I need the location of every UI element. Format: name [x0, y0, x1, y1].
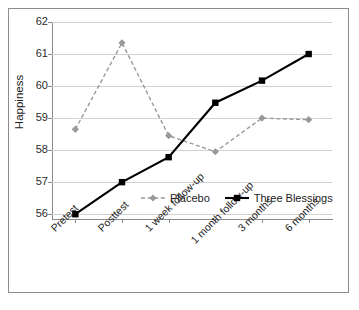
x-tick-mark [122, 219, 123, 223]
data-point-marker [305, 51, 311, 57]
data-point-marker [72, 126, 79, 133]
data-point-marker [259, 77, 265, 83]
data-point-marker [119, 179, 125, 185]
data-point-marker [305, 116, 312, 123]
y-tick-label: 61 [36, 48, 48, 59]
x-tick-mark [309, 219, 310, 223]
chart-figure: Happiness 56575859606162 PretestPosttest… [0, 0, 359, 310]
legend-swatch-square-icon [224, 192, 250, 204]
y-tick-label: 57 [36, 176, 48, 187]
y-tick-label: 58 [36, 144, 48, 155]
data-point-marker [212, 100, 218, 106]
legend-item-placebo: Placebo [140, 192, 210, 204]
legend-label: Three Blessings [254, 193, 333, 204]
x-tick-mark [262, 219, 263, 223]
data-point-marker [165, 154, 171, 160]
y-tick-mark [48, 22, 52, 23]
y-tick-mark [48, 86, 52, 87]
series-line-placebo [75, 43, 308, 152]
legend-item-three-blessings: Three Blessings [224, 192, 333, 204]
y-tick-label: 56 [36, 208, 48, 219]
y-tick-mark [48, 54, 52, 55]
y-tick-label: 62 [36, 16, 48, 27]
x-tick-mark [169, 219, 170, 223]
chart-legend: PlaceboThree Blessings [140, 190, 333, 206]
data-point-marker [165, 132, 172, 139]
y-tick-mark [48, 150, 52, 151]
y-tick-mark [48, 182, 52, 183]
y-axis-tick-labels: 56575859606162 [14, 0, 48, 310]
y-tick-mark [48, 214, 52, 215]
legend-swatch-diamond-icon [140, 192, 166, 204]
legend-label: Placebo [170, 193, 210, 204]
data-point-marker [118, 39, 125, 46]
y-tick-label: 60 [36, 80, 48, 91]
x-tick-mark [75, 219, 76, 223]
y-tick-label: 59 [36, 112, 48, 123]
y-tick-mark [48, 118, 52, 119]
data-point-marker [212, 148, 219, 155]
